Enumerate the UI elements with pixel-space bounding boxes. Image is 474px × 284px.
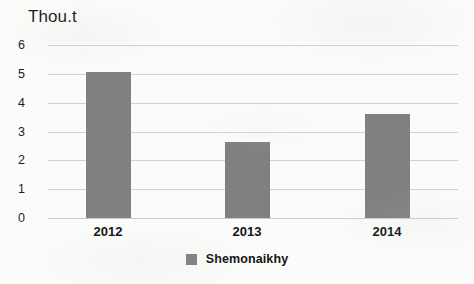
chart-legend: Shemonaikhy bbox=[0, 252, 474, 266]
legend-entry-label: Shemonaikhy bbox=[206, 252, 288, 266]
y-axis-tick-label: 1 bbox=[18, 182, 40, 196]
bar-2014 bbox=[365, 114, 410, 218]
x-axis-tick-label-2012: 2012 bbox=[73, 224, 143, 239]
plot-area bbox=[48, 45, 458, 218]
y-axis-tick-label: 4 bbox=[18, 96, 40, 110]
y-axis-tick-label: 6 bbox=[18, 38, 40, 52]
x-axis-tick-label-2014: 2014 bbox=[352, 224, 422, 239]
gridline bbox=[48, 45, 458, 46]
y-axis-tick-label: 3 bbox=[18, 125, 40, 139]
gridline-baseline bbox=[48, 218, 458, 219]
y-axis-tick-label: 5 bbox=[18, 67, 40, 81]
y-axis-title: Thou.t bbox=[28, 7, 77, 27]
bar-2013 bbox=[225, 142, 270, 218]
bar-2012 bbox=[86, 72, 131, 218]
legend-swatch-icon bbox=[186, 254, 197, 265]
bar-chart: Thou.t 6 5 4 3 2 1 0 2012 2013 2014 Shem… bbox=[0, 0, 474, 284]
x-axis-tick-label-2013: 2013 bbox=[212, 224, 282, 239]
y-axis-tick-label: 2 bbox=[18, 153, 40, 167]
y-axis-tick-label: 0 bbox=[18, 211, 40, 225]
